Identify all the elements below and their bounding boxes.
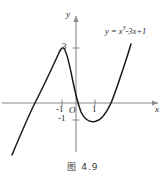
y-axis-arrow <box>73 16 78 22</box>
x-axis-label: x <box>155 105 159 114</box>
y-axis-label: y <box>66 10 70 19</box>
origin-label: O <box>69 106 76 115</box>
figure-container: y x -1 O 1 3 -1 y = x3-3x+1 图 4.9 <box>0 0 166 180</box>
x-tick-label-1: 1 <box>92 105 97 114</box>
function-curve <box>12 44 131 155</box>
equation-base: y = x <box>105 26 123 36</box>
y-tick-label-3: 3 <box>62 42 67 51</box>
function-plot <box>0 0 166 160</box>
figure-caption: 图 4.9 <box>0 160 166 173</box>
y-tick-label-neg1: -1 <box>58 114 66 123</box>
curve-equation-label: y = x3-3x+1 <box>105 25 146 35</box>
equation-tail: -3x+1 <box>126 26 147 36</box>
